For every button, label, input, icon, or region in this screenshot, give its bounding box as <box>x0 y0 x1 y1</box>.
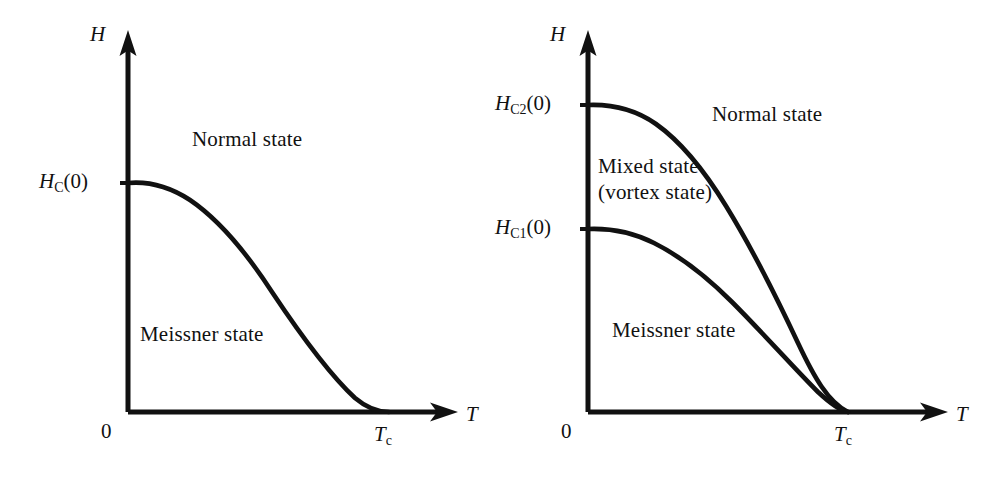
type-ii-plot-graphic <box>494 0 989 484</box>
hc0-symbol: H <box>39 169 54 193</box>
region-label-mixed-state-line1: Mixed state <box>598 154 712 180</box>
tc-symbol: T <box>374 422 386 446</box>
critical-field-curve-hc <box>128 183 389 412</box>
x-axis-type-i <box>128 403 458 422</box>
y-axis-type-i <box>120 30 137 412</box>
y-axis-label-h: H <box>550 24 565 45</box>
hc0-argument: (0) <box>64 169 89 193</box>
region-label-normal-state: Normal state <box>192 129 302 150</box>
region-label-mixed-state-line2: (vortex state) <box>598 180 712 206</box>
region-label-meissner-state: Meissner state <box>140 324 264 345</box>
tc-subscript: c <box>386 433 392 448</box>
x-axis-label-t: T <box>956 404 968 425</box>
origin-label: 0 <box>101 421 112 442</box>
hc2-argument: (0) <box>527 91 552 115</box>
y-axis-label-h: H <box>90 24 105 45</box>
tick-label-tc: Tc <box>834 424 852 445</box>
hc1-subscript: C1 <box>510 226 526 241</box>
origin-label: 0 <box>561 421 572 442</box>
y-axis-type-ii <box>580 30 597 412</box>
type-i-plot-graphic <box>0 0 495 484</box>
hc2-symbol: H <box>495 91 510 115</box>
hc0-subscript: C <box>54 180 63 195</box>
tick-label-tc: Tc <box>374 424 392 445</box>
tick-label-hc0: HC(0) <box>39 171 88 192</box>
upper-critical-field-curve-hc2 <box>588 105 848 412</box>
tick-label-hc2-0: HC2(0) <box>495 93 551 114</box>
panel-type-ii: H T 0 Tc HC2(0) HC1(0) Normal state Mixe… <box>494 0 989 484</box>
hc1-symbol: H <box>495 215 510 239</box>
region-label-normal-state: Normal state <box>712 104 822 125</box>
region-label-meissner-state: Meissner state <box>612 320 736 341</box>
hc1-argument: (0) <box>527 215 552 239</box>
tc-symbol: T <box>834 422 846 446</box>
tick-label-hc1-0: HC1(0) <box>495 217 551 238</box>
hc2-subscript: C2 <box>510 102 526 117</box>
phase-diagram-figure: H T 0 Tc HC(0) Normal state Meissner sta… <box>0 0 989 484</box>
panel-type-i: H T 0 Tc HC(0) Normal state Meissner sta… <box>0 0 495 484</box>
x-axis-label-t: T <box>466 404 478 425</box>
tc-subscript: c <box>846 433 852 448</box>
x-axis-type-ii <box>588 403 948 422</box>
region-label-mixed-state: Mixed state (vortex state) <box>598 154 712 205</box>
